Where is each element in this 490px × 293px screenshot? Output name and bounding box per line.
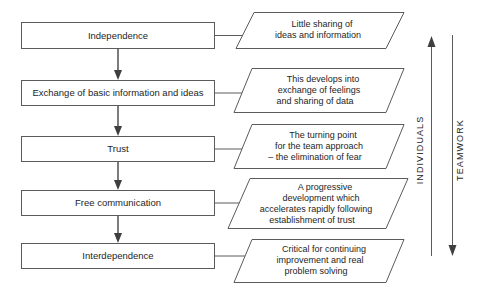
- flow-arrow-head-icon: [114, 70, 122, 80]
- diagram-canvas: Independence Exchange of basic informati…: [0, 0, 490, 293]
- callout-text-line: and sharing of data: [276, 96, 353, 106]
- axis-label-teamwork: TEAMWORK: [455, 119, 465, 181]
- callout-text-line: Little sharing of: [291, 19, 353, 29]
- stage-label: Free communication: [75, 197, 161, 208]
- stage-label: Exchange of basic information and ideas: [32, 87, 203, 98]
- stage-label: Interdependence: [82, 250, 153, 261]
- callout-text-line: This develops into: [287, 74, 360, 84]
- callout-text-line: development which: [282, 193, 359, 203]
- team-development-diagram: Independence Exchange of basic informati…: [0, 0, 490, 293]
- callout-text-line: ideas and information: [275, 30, 361, 40]
- callout-text-line: – the elimination of fear: [268, 152, 362, 162]
- axis-label-individuals: INDIVIDUALS: [415, 116, 425, 185]
- arrow-up-icon: [428, 36, 436, 47]
- stage-label: Independence: [88, 30, 148, 41]
- arrow-down-icon: [449, 245, 457, 256]
- stage-label: Trust: [107, 143, 129, 154]
- callout-text-line: establishment of trust: [269, 215, 355, 225]
- callout-text-line: improvement and real: [276, 255, 363, 265]
- callout-text-line: for the team approach: [275, 141, 363, 151]
- callout-text-line: The turning point: [289, 130, 357, 140]
- callout-group: Little sharing of ideas and information …: [228, 13, 408, 283]
- callout-text-line: accelerates rapidly following: [260, 204, 373, 214]
- flow-arrow-head-icon: [114, 126, 122, 136]
- callout-text-line: problem solving: [284, 266, 347, 276]
- flow-arrow-head-icon: [114, 233, 122, 243]
- callout-text-line: Critical for continuing: [282, 244, 366, 254]
- flow-arrow-head-icon: [114, 180, 122, 190]
- callout-text-line: exchange of feelings: [278, 85, 361, 95]
- callout-text-line: A progressive: [298, 182, 353, 192]
- axis-group: INDIVIDUALS TEAMWORK: [415, 35, 465, 256]
